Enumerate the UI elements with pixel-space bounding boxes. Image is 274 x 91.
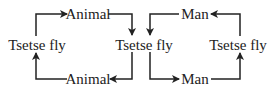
arrow-bottom-man-to-right-fly [211, 53, 240, 79]
arrow-left-fly-to-top-animal [36, 14, 67, 36]
node-center-tsetse-fly: Tsetse fly [115, 37, 173, 53]
node-bottom-animal: Animal [66, 71, 111, 87]
arrow-top-animal-to-center-fly [108, 14, 132, 35]
arrow-bottom-animal-to-left-fly [36, 53, 67, 79]
node-bottom-man: Man [181, 71, 209, 87]
arrow-right-fly-to-top-man [211, 14, 240, 36]
node-left-tsetse-fly: Tsetse fly [8, 37, 66, 53]
arrow-center-fly-to-bottom-man [150, 52, 179, 79]
node-top-man: Man [181, 6, 209, 22]
arrow-center-fly-to-bottom-animal [110, 52, 132, 79]
node-top-animal: Animal [66, 6, 111, 22]
node-right-tsetse-fly: Tsetse fly [209, 37, 267, 53]
tsetse-transmission-diagram: Tsetse fly Animal Animal Tsetse fly Man … [0, 0, 274, 91]
arrow-top-man-to-center-fly [150, 14, 179, 35]
